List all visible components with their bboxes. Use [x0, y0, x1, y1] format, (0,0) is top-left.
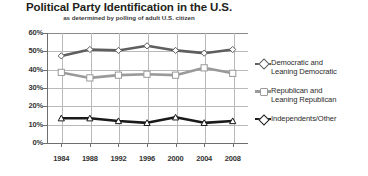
chart-subtitle: as determined by polling of adult U.S. c… — [0, 14, 258, 21]
y-tick-60 — [43, 33, 47, 34]
data-point — [172, 47, 178, 53]
data-point — [115, 47, 121, 53]
chart-title: Political Party Identification in the U.… — [0, 1, 258, 13]
data-point — [144, 43, 150, 49]
series-3 — [58, 114, 236, 125]
series-1 — [58, 43, 236, 59]
data-point — [87, 75, 93, 81]
y-tick-40 — [43, 70, 47, 71]
y-tick-30 — [43, 88, 47, 89]
legend-label: Independents/Other — [271, 114, 336, 123]
y-tick-20 — [43, 106, 47, 107]
data-point — [144, 71, 150, 77]
legend-label: Republican andLeaning Republican — [271, 86, 336, 105]
data-point — [201, 50, 207, 56]
x-tick-2000 — [176, 143, 177, 147]
legend-marker-icon — [255, 59, 271, 68]
legend-label: Democratic andLeaning Democratic — [271, 58, 337, 77]
data-point — [58, 69, 64, 75]
y-tick-label-10: 10% — [3, 120, 43, 129]
legend-marker-icon — [255, 115, 271, 124]
legend-item-3[interactable]: Independents/Other — [255, 114, 368, 124]
x-tick-2008 — [233, 143, 234, 147]
y-tick-label-60: 60% — [3, 28, 43, 37]
data-point — [115, 72, 121, 78]
legend-marker-icon — [255, 87, 271, 96]
x-tick-1988 — [90, 143, 91, 147]
y-axis-labels: 0%10%20%30%40%50%60% — [0, 33, 43, 143]
x-tick-label-2008: 2008 — [213, 154, 253, 163]
y-tick-10 — [43, 125, 47, 126]
series-2 — [58, 65, 236, 81]
y-tick-label-20: 20% — [3, 101, 43, 110]
x-tick-1992 — [118, 143, 119, 147]
x-tick-1984 — [61, 143, 62, 147]
legend-item-1[interactable]: Democratic andLeaning Democratic — [255, 58, 368, 77]
data-point — [172, 72, 178, 78]
data-point — [201, 65, 207, 71]
y-tick-label-0: 0% — [3, 138, 43, 147]
y-tick-label-40: 40% — [3, 65, 43, 74]
series-layer — [47, 33, 247, 143]
data-point — [230, 70, 236, 76]
y-tick-0 — [43, 143, 47, 144]
x-tick-1996 — [147, 143, 148, 147]
x-axis-labels: 1984198819921996200020042008 — [47, 154, 257, 168]
x-tick-2004 — [204, 143, 205, 147]
data-point — [230, 46, 236, 52]
chart-legend: Democratic andLeaning DemocraticRepublic… — [255, 58, 368, 133]
y-tick-label-50: 50% — [3, 46, 43, 55]
y-tick-50 — [43, 51, 47, 52]
chart-container: Political Party Identification in the U.… — [0, 0, 368, 176]
data-point — [87, 46, 93, 52]
data-point — [58, 53, 64, 59]
y-tick-label-30: 30% — [3, 83, 43, 92]
legend-item-2[interactable]: Republican andLeaning Republican — [255, 86, 368, 105]
